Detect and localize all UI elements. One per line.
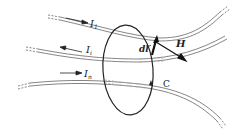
label-h: H bbox=[175, 38, 186, 49]
wire-1 bbox=[48, 6, 230, 41]
wire-n bbox=[18, 80, 226, 129]
label-c: C bbox=[163, 79, 170, 89]
arrow-in bbox=[60, 71, 82, 75]
loop-c bbox=[100, 23, 156, 116]
label-ii: Ii bbox=[85, 44, 92, 56]
label-dl: dl′ bbox=[139, 44, 152, 54]
arrow-ii bbox=[60, 46, 82, 52]
wire-i bbox=[26, 36, 227, 62]
label-in: In bbox=[83, 68, 92, 80]
label-i1: I1 bbox=[89, 18, 98, 30]
ampere-loop-diagram: I1 Ii In dl′ H C bbox=[0, 0, 240, 138]
